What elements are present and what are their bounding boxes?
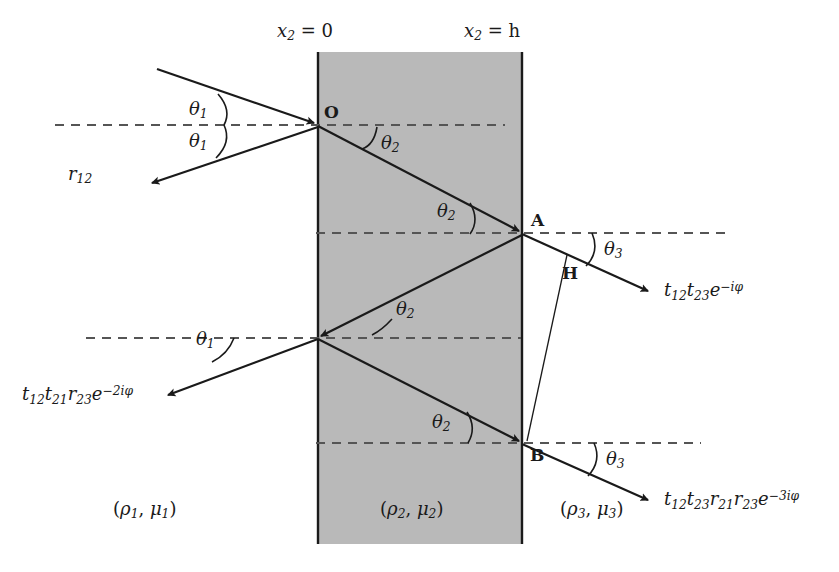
point-B-label: B: [530, 447, 544, 464]
point-H-label: H: [562, 265, 578, 282]
medium-2-label: (ρ2, μ2): [380, 500, 443, 521]
right-boundary-eq: = h: [488, 20, 520, 41]
point-O-label: O: [324, 104, 339, 121]
angle-theta3-lower-label: θ3: [606, 450, 625, 471]
ray-incident: [157, 69, 314, 123]
left-boundary-x2: x: [277, 20, 287, 41]
angle-theta2-at-A-label: θ2: [437, 202, 456, 223]
ray-reflected-r12: [152, 127, 318, 183]
ray-t12t21r23-label: t12t21r23e−2iφ: [22, 385, 133, 406]
angle-theta2-mid-label: θ2: [396, 300, 415, 321]
right-boundary-label: x2 = h: [464, 22, 520, 43]
angle-theta1-lower-label: θ1: [196, 330, 215, 351]
arc-theta3-lower: [588, 443, 597, 476]
ray-r12-label: r12: [68, 165, 92, 186]
angle-theta3-upper-label: θ3: [604, 240, 623, 261]
arc-theta1-incident: [218, 94, 227, 125]
ray-t12t23r21r23-label: t12t23r21r23e−3iφ: [664, 490, 799, 511]
left-boundary-eq: = 0: [301, 20, 333, 41]
medium-3-label: (ρ3, μ3): [560, 500, 623, 521]
left-boundary-label: x2 = 0: [277, 22, 333, 43]
angle-theta1-reflected-label: θ1: [189, 132, 208, 153]
angle-theta1-incident-label: θ1: [189, 100, 208, 121]
angle-theta2-lower-label: θ2: [432, 413, 451, 434]
wave-layer-diagram: x2 = 0 x2 = h O A B H θ1 θ1 θ2 θ2 θ2 θ2 …: [0, 0, 839, 572]
arc-theta1-reflected: [216, 125, 227, 158]
angle-theta2-upper-label: θ2: [381, 134, 400, 155]
construction-line-H-to-B: [527, 255, 567, 441]
point-A-label: A: [531, 212, 544, 229]
arc-theta1-lower: [212, 338, 234, 362]
ray-transmitted-at-A: [522, 234, 648, 291]
arc-theta3-upper: [586, 233, 595, 266]
medium-1-label: (ρ1, μ1): [113, 500, 176, 521]
right-boundary-x2: x: [464, 20, 474, 41]
ray-reflected-t12t21r23: [168, 339, 318, 395]
ray-t12t23-label: t12t23e−iφ: [664, 281, 743, 302]
